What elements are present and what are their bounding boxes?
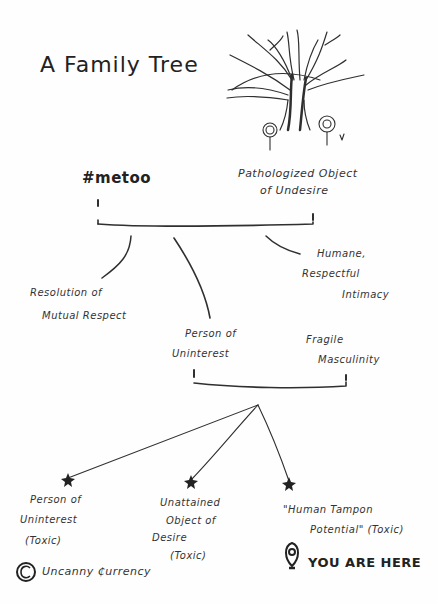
node-gen3-tampon-line2: Potential" (Toxic) [310, 524, 404, 536]
star-icon [184, 475, 198, 489]
node-gen3-object-line3: Desire [152, 532, 187, 544]
star-icon [61, 473, 75, 487]
node-metoo: #metoo [82, 170, 151, 187]
node-pathologized-object-line2: of Undesire [260, 185, 328, 198]
flower-icon [263, 116, 344, 150]
node-gen3-object-line4: (Toxic) [170, 550, 207, 562]
star-markers [61, 473, 296, 491]
node-gen3-object-line1: Unattained [160, 497, 220, 509]
node-resolution-line1: Resolution of [30, 287, 102, 299]
location-pin-icon [286, 543, 298, 568]
star-icon [282, 477, 296, 491]
node-humane-intimacy-line3: Intimacy [342, 289, 389, 301]
node-fragile-masculinity-line2: Masculinity [318, 354, 380, 366]
node-person-of-uninterest-line2: Uninterest [172, 348, 229, 360]
family-tree-drawing: A Family Tree #metoo Pathologized Object… [0, 0, 438, 604]
node-humane-intimacy-line2: Respectful [302, 268, 360, 280]
node-fragile-masculinity-line1: Fragile [306, 334, 344, 346]
node-person-of-uninterest-line1: Person of [185, 328, 236, 340]
page-title: A Family Tree [40, 52, 199, 77]
you-are-here-label: YOU ARE HERE [308, 556, 421, 571]
node-humane-intimacy-line1: Humane, [317, 248, 366, 260]
node-gen3-object-line2: Object of [166, 515, 216, 527]
node-gen3-person-line2: Uninterest [20, 514, 77, 526]
copyright-icon [17, 563, 35, 581]
node-gen3-person-line1: Person of [30, 494, 81, 506]
node-gen3-tampon-line1: "Human Tampon [283, 504, 373, 516]
tree-illustration-icon [227, 30, 364, 130]
credit-label: Uncanny ₵urrency [42, 566, 151, 579]
node-gen3-person-line3: (Toxic) [25, 535, 62, 547]
node-pathologized-object-line1: Pathologized Object [238, 168, 358, 181]
node-resolution-line2: Mutual Respect [42, 310, 127, 322]
